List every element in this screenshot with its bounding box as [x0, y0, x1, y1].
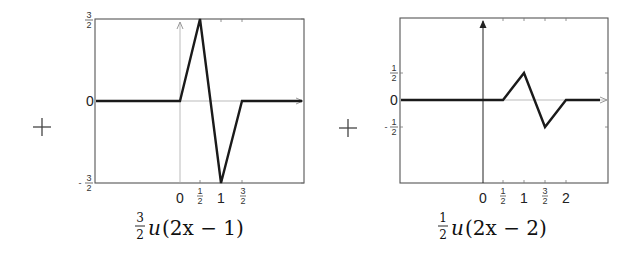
- y-tick-label-bottom-num: 1: [391, 117, 396, 127]
- y-tick-label-bottom-den: 2: [86, 183, 91, 193]
- x-tick-label-3half-den: 2: [542, 196, 547, 206]
- x-tick-label-2: 2: [562, 190, 570, 206]
- y-tick-label-neg-sign: -: [79, 178, 82, 188]
- y-tick-label-top-num: 1: [391, 63, 396, 73]
- x-tick-label-0: 0: [176, 190, 184, 206]
- function-curve: [401, 73, 600, 127]
- y-tick-label-bottom-num: 3: [86, 173, 91, 183]
- svg-text:1: 1: [439, 211, 447, 225]
- x-tick-label-half-den: 2: [197, 196, 202, 206]
- svg-text:2: 2: [136, 228, 144, 242]
- svg-text:3: 3: [136, 211, 144, 225]
- x-tick-label-1: 1: [520, 190, 528, 206]
- x-tick-label-3half-num: 3: [542, 186, 547, 196]
- svg-text:u: u: [148, 216, 161, 240]
- y-tick-label-zero: 0: [390, 92, 398, 108]
- x-tick-label-1: 1: [217, 190, 225, 206]
- chart-2-caption: 1 2 u (2x − 2): [438, 211, 547, 242]
- x-tick-label-half-num: 1: [197, 186, 202, 196]
- y-tick-label-top-num: 3: [86, 10, 91, 20]
- y-tick-label-neg-sign: -: [385, 122, 388, 132]
- y-tick-label-top-den: 2: [86, 20, 91, 30]
- plus-operator-2: [339, 119, 357, 137]
- plus-operator-1: [33, 118, 51, 136]
- x-tick-label-0: 0: [479, 190, 487, 206]
- chart-2: 1 2 0 - 1 2 0 1 2 1 3 2 2 1 2 u (2x − 2): [385, 18, 609, 242]
- y-tick-label-bottom-den: 2: [391, 127, 396, 137]
- x-tick-label-3half-num: 3: [240, 186, 245, 196]
- y-tick-label-top-den: 2: [391, 73, 396, 83]
- svg-text:(2x − 1): (2x − 1): [162, 216, 244, 240]
- diagram-canvas: 3 2 0 - 3 2 0 1 2 1 3 2 3 2 u (2x − 1): [0, 0, 642, 268]
- x-tick-label-half-num: 1: [500, 186, 505, 196]
- chart-1: 3 2 0 - 3 2 0 1 2 1 3 2 3 2 u (2x − 1): [79, 10, 305, 242]
- svg-text:(2x − 2): (2x − 2): [465, 216, 547, 240]
- x-tick-label-half-den: 2: [500, 196, 505, 206]
- chart-1-caption: 3 2 u (2x − 1): [135, 211, 244, 242]
- x-tick-label-3half-den: 2: [240, 196, 245, 206]
- y-tick-label-zero: 0: [86, 93, 94, 109]
- svg-text:u: u: [451, 216, 464, 240]
- svg-text:2: 2: [439, 228, 447, 242]
